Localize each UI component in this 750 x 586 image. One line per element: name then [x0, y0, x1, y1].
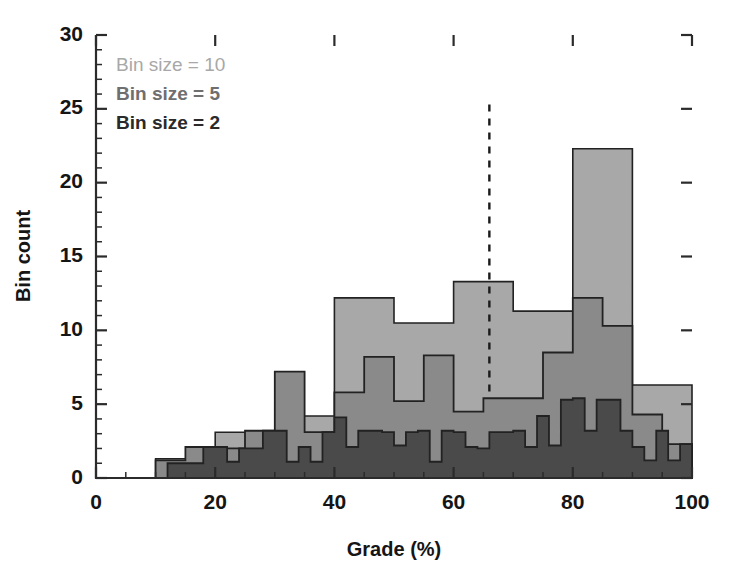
y-tick-label-30: 30: [60, 22, 83, 45]
legend-item-1: Bin size = 10: [116, 54, 225, 75]
legend-item-2: Bin size = 5: [116, 83, 220, 104]
y-tick-label-5: 5: [71, 391, 83, 414]
x-tick-label-40: 40: [323, 490, 346, 513]
x-tick-label-60: 60: [442, 490, 465, 513]
chart-legend: Bin size = 10Bin size = 5Bin size = 2: [116, 54, 225, 133]
y-tick-label-10: 10: [60, 317, 83, 340]
y-tick-label-15: 15: [60, 243, 84, 266]
y-axis-ticks: [96, 35, 107, 478]
chart-canvas: 051015202530020406080100 Grade (%) Bin c…: [0, 0, 750, 586]
legend-item-3: Bin size = 2: [116, 112, 220, 133]
x-tick-label-20: 20: [204, 490, 227, 513]
y-tick-label-25: 25: [60, 95, 84, 118]
x-tick-label-100: 100: [674, 490, 709, 513]
x-axis-title: Grade (%): [347, 538, 441, 560]
x-tick-label-0: 0: [90, 490, 102, 513]
y-tick-label-20: 20: [60, 169, 83, 192]
y-axis-title: Bin count: [12, 210, 34, 303]
y-tick-label-0: 0: [71, 465, 83, 488]
x-tick-label-80: 80: [561, 490, 584, 513]
top-axis-ticks: [96, 35, 692, 46]
histogram-figure: 051015202530020406080100 Grade (%) Bin c…: [0, 0, 750, 586]
histogram-layers: [96, 149, 692, 478]
